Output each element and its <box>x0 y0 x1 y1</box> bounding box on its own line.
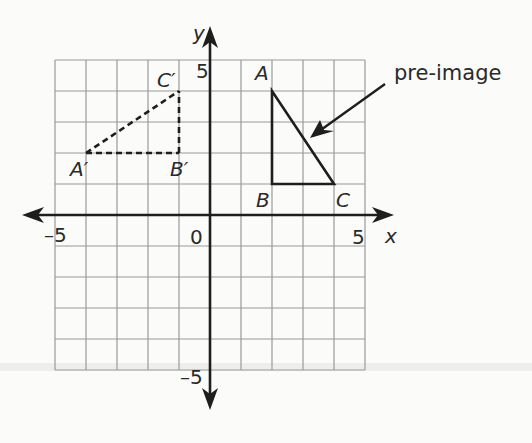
callout-arrow-icon <box>310 84 385 138</box>
pre-image-callout: pre-image <box>394 61 501 85</box>
x-axis-label: x <box>384 224 397 248</box>
coordinate-plane: y x 5 –5 –5 5 0 A′ B′ C′ A B C pre-image <box>0 0 532 443</box>
vertex-label-c: C <box>336 188 350 212</box>
origin-label: 0 <box>190 225 203 249</box>
vertex-label-a: A <box>253 61 269 85</box>
vertex-label-b-prime: B′ <box>170 157 189 181</box>
vertex-label-c-prime: C′ <box>157 68 176 92</box>
y-axis-label: y <box>192 21 206 45</box>
y-max-tick-label: 5 <box>196 59 209 83</box>
x-max-tick-label: 5 <box>352 225 365 249</box>
axes <box>22 26 394 410</box>
vertex-label-b: B <box>256 188 270 212</box>
x-min-tick-label: –5 <box>44 223 67 247</box>
vertex-label-a-prime: A′ <box>68 157 89 181</box>
y-min-tick-label: –5 <box>180 365 203 389</box>
